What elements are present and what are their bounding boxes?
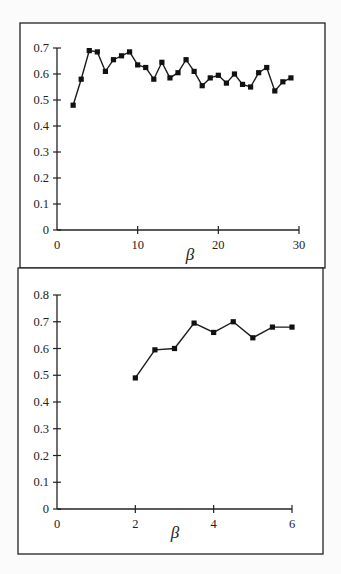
x-tick-label: 0 <box>54 238 60 252</box>
data-point-marker <box>175 70 180 75</box>
y-tick-label: 0.1 <box>33 475 49 489</box>
top-panel-frame <box>20 23 325 268</box>
y-tick-label: 0.5 <box>33 368 49 382</box>
y-tick-label: 0.4 <box>33 119 49 133</box>
data-point-marker <box>172 346 177 351</box>
data-point-marker <box>231 319 236 324</box>
data-point-marker <box>232 71 237 76</box>
data-point-marker <box>95 49 100 54</box>
y-tick-label: 0.7 <box>33 315 49 329</box>
data-point-marker <box>256 70 261 75</box>
data-point-marker <box>167 75 172 80</box>
y-tick-label: 0.3 <box>33 422 49 436</box>
data-point-marker <box>159 60 164 65</box>
data-point-marker <box>280 79 285 84</box>
data-point-marker <box>143 65 148 70</box>
data-point-marker <box>119 53 124 58</box>
data-point-marker <box>79 77 84 82</box>
data-point-marker <box>127 49 132 54</box>
x-tick-label: 30 <box>293 238 306 252</box>
y-tick-label: 0.8 <box>33 288 49 302</box>
data-point-marker <box>216 73 221 78</box>
bottom-chart-x-axis-title: β <box>170 523 180 542</box>
data-point-marker <box>183 57 188 62</box>
y-tick-label: 0.4 <box>33 395 49 409</box>
data-point-marker <box>133 375 138 380</box>
y-tick-label: 0 <box>43 223 49 237</box>
x-tick-label: 2 <box>132 517 138 531</box>
y-tick-label: 0 <box>43 502 49 516</box>
data-point-marker <box>211 330 216 335</box>
data-point-marker <box>87 48 92 53</box>
bottom-panel-frame <box>18 268 323 554</box>
data-point-marker <box>288 75 293 80</box>
x-tick-label: 20 <box>212 238 225 252</box>
y-tick-label: 0.1 <box>33 197 49 211</box>
y-tick-label: 0.2 <box>33 171 49 185</box>
data-point-marker <box>191 320 196 325</box>
y-tick-label: 0.6 <box>33 67 49 81</box>
bottom-chart-y-tick-labels: 00.10.20.30.40.50.60.70.8 <box>33 288 49 516</box>
x-tick-label: 10 <box>131 238 144 252</box>
x-tick-label: 6 <box>289 517 295 531</box>
data-point-marker <box>270 325 275 330</box>
data-point-marker <box>250 335 255 340</box>
data-point-marker <box>224 81 229 86</box>
figure-canvas: 00.10.20.30.40.50.60.7 0102030 β 00.10.2… <box>0 0 341 574</box>
data-point-marker <box>248 84 253 89</box>
data-point-marker <box>103 69 108 74</box>
data-point-marker <box>71 103 76 108</box>
data-point-marker <box>151 77 156 82</box>
y-tick-label: 0.5 <box>33 93 49 107</box>
y-tick-label: 0.6 <box>33 342 49 356</box>
data-point-marker <box>240 82 245 87</box>
y-tick-label: 0.7 <box>33 41 49 55</box>
data-point-marker <box>272 88 277 93</box>
top-chart-x-axis-title: β <box>185 245 195 264</box>
data-point-marker <box>135 62 140 67</box>
x-tick-label: 4 <box>211 517 218 531</box>
data-point-marker <box>208 75 213 80</box>
data-point-marker <box>192 69 197 74</box>
data-point-marker <box>264 65 269 70</box>
x-tick-label: 0 <box>54 517 60 531</box>
y-tick-label: 0.2 <box>33 449 49 463</box>
data-point-marker <box>111 57 116 62</box>
data-point-marker <box>289 325 294 330</box>
y-tick-label: 0.3 <box>33 145 49 159</box>
data-point-marker <box>200 83 205 88</box>
data-point-marker <box>152 347 157 352</box>
